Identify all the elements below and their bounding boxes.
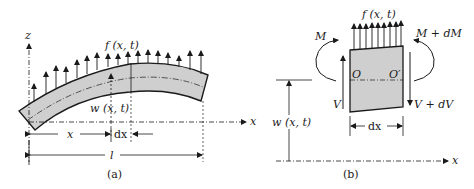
point-o-prime-label: O′	[389, 68, 401, 81]
z-axis-label: z	[24, 29, 31, 42]
beam-vibration-figure: z x f (x, t) w (x, t)	[0, 0, 474, 189]
element-load-arrows	[354, 21, 401, 50]
dx-dimension-label: dx	[114, 128, 128, 141]
x-axis-label: x	[250, 115, 257, 128]
panel-b: O O′ f (x, t) M M + dM V V + dV	[270, 8, 463, 181]
x-axis-b-label: x	[452, 154, 459, 167]
moment-left-label: M	[314, 30, 327, 43]
moment-left-arrow	[316, 40, 338, 81]
shear-left-label: V	[333, 98, 342, 111]
deflection-label: w (x, t)	[90, 102, 129, 115]
panel-b-caption: (b)	[343, 168, 359, 181]
element-load-label: f (x, t)	[361, 8, 396, 21]
moment-right-label: M + dM	[415, 27, 463, 40]
l-dimension-label: l	[110, 149, 114, 162]
element-dx-label: dx	[368, 120, 382, 133]
moment-right-arrow	[414, 40, 434, 81]
shear-right-label: V + dV	[414, 98, 454, 111]
beam-body	[19, 63, 208, 130]
point-o-label: O	[352, 68, 361, 81]
panel-a-caption: (a)	[107, 168, 122, 181]
deflection-b-label: w (x, t)	[272, 116, 311, 129]
panel-a: z x f (x, t) w (x, t)	[19, 29, 257, 181]
load-label: f (x, t)	[104, 39, 139, 52]
x-dimension-label: x	[67, 128, 74, 141]
